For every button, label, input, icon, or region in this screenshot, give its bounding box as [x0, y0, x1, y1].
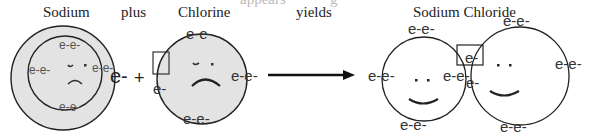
label-plus: plus	[121, 5, 146, 20]
label-chlorine: Chlorine	[178, 5, 231, 20]
yields-arrow-head-icon	[343, 70, 355, 80]
nacl-chloride-electron-pair-right: e-e-	[555, 56, 582, 71]
sodium-electron-pair-bottom: e-e-	[59, 101, 80, 113]
chlorine-single-electron: e-	[153, 81, 166, 96]
nacl-sodium-right-eye-icon	[427, 79, 430, 82]
nacl-chloride-left-eye-icon	[497, 64, 500, 67]
nacl-chloride-ion	[471, 27, 569, 125]
nacl-sodium-electron-pair-bottom: e-e-	[400, 117, 427, 132]
nacl-sodium-left-eye-icon	[415, 79, 418, 82]
sodium-electron-pair-left: e-e-	[29, 64, 50, 76]
sodium-right-eye-icon	[84, 64, 87, 67]
chlorine-electron-pair-right: e-e-	[231, 68, 258, 83]
nacl-chloride-right-eye-icon	[509, 64, 512, 67]
label-yields: yields	[296, 5, 332, 20]
plus-sign: +	[134, 69, 145, 87]
nacl-chloride-single-electron: e-	[466, 75, 479, 90]
sodium-electron-pair-top: e-e-	[59, 39, 80, 51]
nacl-sodium-electron-pair-left: e-e-	[368, 68, 395, 83]
nacl-chloride-electron-pair-top: e-e-	[503, 13, 530, 28]
nacl-transferred-electron: e-	[465, 50, 478, 65]
chlorine-electron-pair-top: e-e-	[186, 26, 213, 41]
sodium-valence-electron: e-	[110, 66, 128, 86]
chlorine-right-eye-icon	[211, 63, 214, 66]
chlorine-electron-pair-bottom: e-e-	[183, 111, 210, 126]
label-sodium-chloride: Sodium Chloride	[413, 5, 516, 20]
label-sodium: Sodium	[43, 5, 90, 20]
nacl-chloride-electron-pair-bottom: e-e-	[500, 119, 527, 134]
nacl-sodium-electron-pair-top: e-e-	[408, 21, 435, 36]
